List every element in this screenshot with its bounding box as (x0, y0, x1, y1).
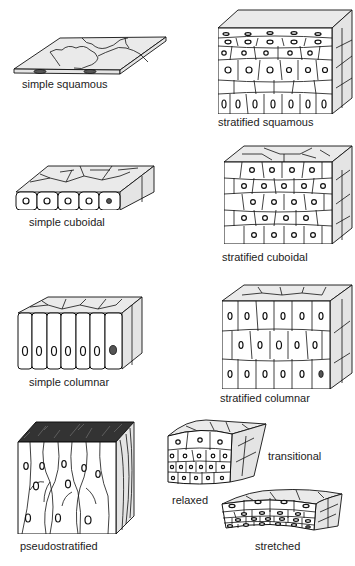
transitional-stretched-illustration (220, 482, 344, 534)
stratified-cuboidal-illustration (224, 144, 354, 244)
transitional-relaxed-label: relaxed (172, 494, 208, 506)
transitional-label: transitional (268, 450, 321, 462)
pseudostratified-label: pseudostratified (20, 540, 98, 552)
simple-cuboidal-label: simple cuboidal (29, 216, 105, 228)
columnar-cells (18, 313, 122, 369)
stratified-columnar-label: stratified columnar (220, 392, 310, 404)
nucleus (84, 70, 96, 74)
nucleus (34, 70, 46, 74)
transitional-relaxed-illustration (166, 416, 268, 486)
cilia-surface (18, 422, 134, 442)
stratified-columnar-figure (222, 283, 354, 389)
stratified-squamous-figure (218, 8, 354, 114)
stratified-cuboidal-label: stratified cuboidal (222, 251, 308, 263)
pseudostratified-illustration (14, 420, 136, 534)
pseudostratified-figure (14, 420, 136, 534)
front-face (14, 69, 120, 74)
simple-columnar-figure (0, 295, 180, 370)
simple-cuboidal-figure (0, 150, 180, 210)
simple-squamous-label: simple squamous (22, 78, 108, 90)
side-face (330, 285, 352, 389)
stratified-cuboidal-figure (224, 144, 354, 244)
stratified-squamous-illustration (218, 8, 354, 114)
stratified-columnar-illustration (222, 283, 354, 389)
simple-columnar-illustration (0, 295, 180, 370)
side-face (230, 424, 266, 482)
top-surface (218, 10, 352, 28)
transitional-relaxed-figure (166, 416, 268, 486)
simple-columnar-label: simple columnar (29, 376, 109, 388)
transitional-stretched-figure (220, 482, 344, 534)
top-surface (222, 285, 352, 301)
transitional-stretched-label: stretched (255, 540, 300, 552)
stratified-squamous-label: stratified squamous (218, 116, 313, 128)
simple-cuboidal-illustration (0, 150, 180, 210)
